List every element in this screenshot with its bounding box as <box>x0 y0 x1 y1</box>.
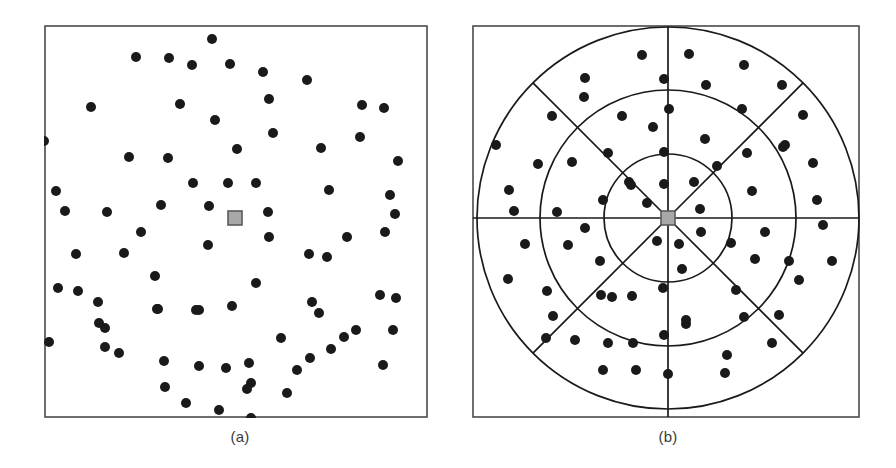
data-point <box>596 290 606 300</box>
data-point <box>552 207 562 217</box>
data-point <box>339 332 349 342</box>
data-point <box>351 325 361 335</box>
data-point <box>570 335 580 345</box>
data-point <box>598 365 608 375</box>
data-point <box>595 256 605 266</box>
data-point <box>100 342 110 352</box>
data-point <box>739 312 749 322</box>
data-point <box>674 239 684 249</box>
data-point <box>798 110 808 120</box>
figure-container: (a) (b) <box>0 0 896 468</box>
data-point <box>659 74 669 84</box>
data-point <box>357 100 367 110</box>
data-point <box>131 52 141 62</box>
data-point <box>204 201 214 211</box>
data-point <box>175 99 185 109</box>
data-point <box>580 223 590 233</box>
data-point <box>322 252 332 262</box>
data-point <box>150 271 160 281</box>
data-point <box>159 356 169 366</box>
data-point <box>689 177 699 187</box>
data-point <box>567 157 577 167</box>
data-point <box>221 363 231 373</box>
data-point <box>598 195 608 205</box>
data-point <box>696 227 706 237</box>
data-point <box>223 178 233 188</box>
data-point <box>225 59 235 69</box>
data-point <box>731 285 741 295</box>
data-point <box>263 207 273 217</box>
data-point <box>282 388 292 398</box>
data-point <box>520 239 530 249</box>
data-point <box>71 249 81 259</box>
center-marker <box>228 211 242 225</box>
data-point <box>227 301 237 311</box>
data-point <box>603 338 613 348</box>
data-point <box>102 207 112 217</box>
data-point <box>156 200 166 210</box>
data-point <box>784 256 794 266</box>
data-point <box>207 34 217 44</box>
data-point <box>244 358 254 368</box>
data-point <box>681 315 691 325</box>
data-point <box>119 248 129 258</box>
data-point <box>739 60 749 70</box>
data-point <box>818 220 828 230</box>
data-point <box>251 278 261 288</box>
data-point <box>742 148 752 158</box>
data-point <box>302 75 312 85</box>
data-point <box>631 365 641 375</box>
data-point <box>684 49 694 59</box>
data-point <box>44 337 54 347</box>
data-point <box>160 382 170 392</box>
data-point <box>747 186 757 196</box>
data-point <box>579 92 589 102</box>
data-point <box>658 283 668 293</box>
caption-panel-a: (a) <box>180 428 300 445</box>
data-point <box>659 330 669 340</box>
data-point <box>547 111 557 121</box>
data-point <box>628 338 638 348</box>
data-point <box>181 398 191 408</box>
data-point <box>324 185 334 195</box>
data-point <box>163 153 173 163</box>
data-point <box>316 143 326 153</box>
panel-b-svg <box>472 25 860 418</box>
data-point <box>677 264 687 274</box>
data-point <box>722 350 732 360</box>
data-point <box>390 209 400 219</box>
data-point <box>203 240 213 250</box>
data-point <box>648 122 658 132</box>
data-point <box>164 53 174 63</box>
data-point <box>563 240 573 250</box>
data-point <box>258 67 268 77</box>
data-point <box>750 254 760 264</box>
data-point <box>627 291 637 301</box>
data-point <box>379 103 389 113</box>
data-point <box>626 180 636 190</box>
data-point <box>760 227 770 237</box>
data-point <box>827 256 837 266</box>
caption-panel-b: (b) <box>608 428 728 445</box>
data-point <box>533 159 543 169</box>
data-point <box>812 195 822 205</box>
data-point <box>60 206 70 216</box>
panel-b-polar-plot <box>472 25 860 418</box>
data-point <box>73 286 83 296</box>
data-point <box>504 185 514 195</box>
data-point <box>53 283 63 293</box>
data-point <box>393 156 403 166</box>
data-point <box>617 111 627 121</box>
data-point <box>276 333 286 343</box>
data-point <box>342 232 352 242</box>
data-point <box>124 152 134 162</box>
data-point <box>242 384 252 394</box>
data-point <box>251 178 261 188</box>
data-point <box>700 134 710 144</box>
data-point <box>603 148 613 158</box>
data-point <box>780 140 790 150</box>
data-point <box>720 368 730 378</box>
data-point <box>378 360 388 370</box>
data-point <box>305 353 315 363</box>
data-point <box>580 73 590 83</box>
